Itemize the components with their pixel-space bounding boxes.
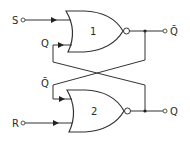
r-input: R xyxy=(12,118,72,129)
q-terminal[interactable] xyxy=(163,109,167,113)
qbar-terminal[interactable] xyxy=(163,29,167,33)
sr-latch-diagram: 1 S Q Q̄ 2 Q̄ R xyxy=(0,0,190,142)
r-terminal[interactable] xyxy=(21,121,25,125)
gate1-output: Q̄ xyxy=(130,25,179,37)
nor-gate-2: 2 xyxy=(67,90,131,132)
gate-1-label: 1 xyxy=(90,26,96,37)
arrow-icon xyxy=(53,120,59,126)
gate2-feedback-label: Q̄ xyxy=(41,77,49,89)
gate1-output-label: Q̄ xyxy=(170,25,178,37)
gate2-output: Q xyxy=(131,106,179,117)
gate-2-label: 2 xyxy=(91,106,97,117)
arrow-icon xyxy=(51,17,57,23)
inverter-bubble-2 xyxy=(125,108,131,114)
gate1-feedback-label: Q xyxy=(41,38,49,49)
gate1-feedback-input: Q xyxy=(41,38,72,62)
arrow-icon xyxy=(58,42,64,48)
s-input: S xyxy=(12,15,71,26)
gate2-output-label: Q xyxy=(170,106,178,117)
inverter-bubble-1 xyxy=(124,28,130,34)
r-label: R xyxy=(12,118,19,129)
junction-dot xyxy=(143,109,146,112)
s-label: S xyxy=(12,15,18,26)
nor-gate-1: 1 xyxy=(66,11,130,52)
s-terminal[interactable] xyxy=(21,18,25,22)
arrow-icon xyxy=(59,96,65,102)
